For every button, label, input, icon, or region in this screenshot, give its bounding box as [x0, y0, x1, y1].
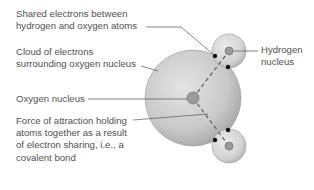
label-force-of-attraction: Force of attraction holding atoms togeth…: [16, 115, 127, 164]
shared-electron: [213, 138, 217, 142]
oxygen-nucleus: [187, 92, 199, 104]
label-electron-cloud: Cloud of electrons surrounding oxygen nu…: [16, 46, 136, 70]
shared-electron: [226, 65, 230, 69]
label-shared-electrons: Shared electrons between hydrogen and ox…: [16, 8, 137, 32]
hydrogen-nucleus-upper: [225, 47, 233, 55]
shared-electron: [213, 54, 217, 58]
label-hydrogen-nucleus: Hydrogen nucleus: [261, 44, 303, 68]
shared-electron: [226, 128, 230, 132]
label-oxygen-nucleus: Oxygen nucleus: [16, 93, 85, 105]
leader-line-shared-electrons: [146, 27, 213, 54]
hydrogen-nucleus-lower: [225, 142, 233, 150]
